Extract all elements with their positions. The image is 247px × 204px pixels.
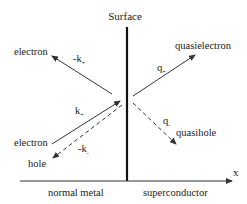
superconductor-label: superconductor [143,187,208,198]
surface-label: Surface [108,10,142,22]
quasihole-label: quasihole [176,127,217,138]
reflected-electron-wavevector: -k+ [73,53,86,66]
scattering-diagram: Surface x normal metal superconductor el… [0,0,247,204]
incident-electron-arrow [52,101,120,144]
quasielectron-arrow [133,55,195,96]
quasielectron-label: quasielectron [175,40,232,51]
incident-electron-label: electron [14,137,49,148]
reflected-hole-label: hole [28,158,46,169]
normal-metal-label: normal metal [48,187,104,198]
incident-electron-wavevector: k+ [75,105,84,118]
quasielectron-wavevector: q+ [157,62,166,75]
x-axis-label: x [233,166,239,178]
reflected-hole-wavevector: -k- [78,143,89,156]
reflected-electron-label: electron [14,46,49,57]
quasihole-wavevector: q- [163,115,170,128]
